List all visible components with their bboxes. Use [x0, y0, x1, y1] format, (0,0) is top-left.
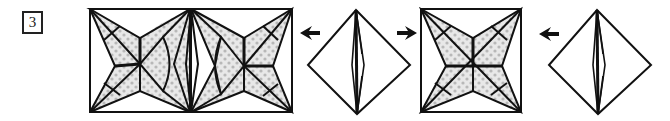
right-star-with-lens [191, 9, 292, 112]
arrow-right-icon [397, 26, 417, 40]
star-in-square-figure [421, 9, 521, 112]
left-star-with-lens [90, 9, 191, 112]
arrow-left-icon [539, 27, 559, 41]
folded-diamond-unit-1 [308, 10, 410, 114]
folded-diamond-unit-2 [549, 10, 651, 114]
origami-diagram [0, 0, 670, 121]
result-double-star-figure [90, 9, 292, 112]
arrow-left-icon [300, 26, 320, 40]
